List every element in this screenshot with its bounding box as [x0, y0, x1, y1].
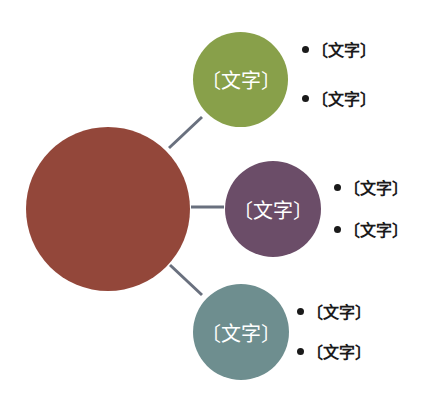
- hub-circle: [26, 127, 190, 291]
- list-item: 〔文字〕: [297, 339, 371, 363]
- list-item: 〔文字〕: [334, 217, 408, 241]
- bullet-icon: [302, 46, 309, 53]
- bullet-text: 〔文字〕: [344, 217, 408, 241]
- bullet-icon: [297, 308, 304, 315]
- bullet-icon: [334, 184, 341, 191]
- bullet-icon: [302, 95, 309, 102]
- hub-spoke-diagram: 〔文字〕 〔文字〕 〔文字〕 〔文字〕 〔文字〕 〔文字〕 〔文字〕 〔文字〕: [0, 0, 442, 397]
- bullet-text: 〔文字〕: [307, 299, 371, 323]
- bullet-text: 〔文字〕: [312, 86, 376, 110]
- list-item: 〔文字〕: [302, 37, 376, 61]
- bullet-text: 〔文字〕: [307, 339, 371, 363]
- list-item: 〔文字〕: [297, 299, 371, 323]
- branch-label-top: 〔文字〕: [201, 65, 281, 94]
- bullet-text: 〔文字〕: [312, 37, 376, 61]
- bullet-text: 〔文字〕: [344, 175, 408, 199]
- branch-circle-middle: 〔文字〕: [225, 161, 321, 257]
- branch-label-bottom: 〔文字〕: [201, 318, 281, 347]
- branch-label-middle: 〔文字〕: [233, 195, 313, 224]
- bullet-icon: [334, 226, 341, 233]
- list-item: 〔文字〕: [302, 86, 376, 110]
- list-item: 〔文字〕: [334, 175, 408, 199]
- connector-top: [169, 117, 202, 148]
- branch-circle-top: 〔文字〕: [193, 32, 288, 127]
- branch-circle-bottom: 〔文字〕: [193, 284, 289, 380]
- connector-bottom: [170, 265, 202, 295]
- bullet-icon: [297, 348, 304, 355]
